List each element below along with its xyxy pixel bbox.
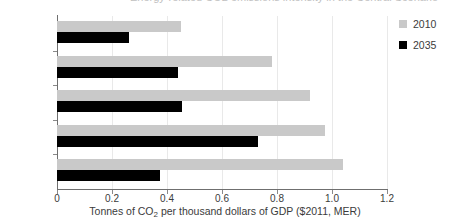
bar-group bbox=[0, 51, 450, 86]
y-axis-tick bbox=[53, 85, 57, 86]
y-axis-tick bbox=[53, 120, 57, 121]
bar-group bbox=[0, 85, 450, 120]
bar-world-2035[interactable] bbox=[57, 32, 129, 43]
x-axis-tick-label: 0 bbox=[54, 193, 60, 204]
x-axis-tick-label: 0.6 bbox=[215, 193, 229, 204]
x-axis-title: Tonnes of CO2 per thousand dollars of GD… bbox=[0, 205, 450, 217]
bar-russia-2035[interactable] bbox=[57, 101, 182, 112]
bar-chart: Tonnes of CO2 per thousand dollars of GD… bbox=[0, 0, 450, 218]
x-axis-title-subscript: 2 bbox=[154, 210, 158, 218]
x-axis-title-before: Tonnes of CO bbox=[89, 205, 153, 217]
x-axis-tick-label: 1.0 bbox=[325, 193, 339, 204]
y-axis-tick bbox=[53, 51, 57, 52]
bar-world-2010[interactable] bbox=[57, 21, 181, 32]
bar-group bbox=[0, 120, 450, 155]
bar-iraq-2035[interactable] bbox=[57, 136, 258, 147]
y-axis-tick bbox=[53, 154, 57, 155]
bar-china-2010[interactable] bbox=[57, 159, 343, 170]
bar-middle-east-2035[interactable] bbox=[57, 67, 178, 78]
x-axis-tick-label: 0.2 bbox=[105, 193, 119, 204]
bar-group bbox=[0, 154, 450, 189]
x-axis-tick-label: 0.8 bbox=[270, 193, 284, 204]
bar-group bbox=[0, 16, 450, 51]
bar-iraq-2010[interactable] bbox=[57, 125, 325, 136]
x-axis-title-after: per thousand dollars of GDP ($2011, MER) bbox=[158, 205, 361, 217]
bar-china-2035[interactable] bbox=[57, 170, 160, 181]
bar-middle-east-2010[interactable] bbox=[57, 56, 272, 67]
x-axis-tick-label: 0.4 bbox=[160, 193, 174, 204]
bar-russia-2010[interactable] bbox=[57, 90, 310, 101]
x-axis-tick-label: 1.2 bbox=[380, 193, 394, 204]
